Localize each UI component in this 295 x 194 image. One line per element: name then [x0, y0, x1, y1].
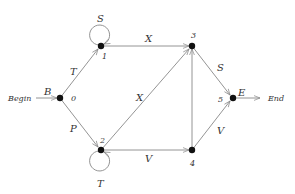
state-graph: Begin T P S T X X V S V End 0 1 2 3 4 5 …	[0, 0, 295, 194]
node-5	[230, 95, 236, 101]
node-2	[98, 147, 104, 153]
edge-label-2-2: T	[97, 178, 105, 189]
edge-label-0-2: P	[69, 123, 77, 134]
edge-0-1	[60, 49, 98, 98]
edge-3-5	[192, 46, 230, 95]
node-1	[98, 43, 104, 49]
edge-label-0-1: T	[70, 66, 78, 77]
edge-2-3	[101, 49, 189, 150]
edge-label-2-3: X	[135, 92, 144, 103]
state-label-begin: B	[43, 86, 51, 97]
node-index-3: 3	[191, 31, 196, 40]
node-0	[57, 95, 63, 101]
node-index-2: 2	[99, 136, 105, 145]
self-loop-1	[90, 25, 110, 45]
edge-0-2	[60, 98, 98, 147]
node-4	[189, 147, 195, 153]
edge-4-5	[192, 101, 230, 150]
node-index-5: 5	[218, 95, 223, 104]
begin-label: Begin	[7, 94, 31, 103]
end-label: End	[267, 94, 284, 103]
edge-label-3-5: S	[217, 62, 224, 73]
self-loop-2	[90, 151, 110, 171]
node-index-1: 1	[102, 52, 107, 61]
node-index-4: 4	[189, 159, 195, 168]
edge-label-1-3: X	[144, 33, 153, 44]
edge-label-4-5: V	[217, 125, 226, 136]
node-3	[189, 43, 195, 49]
node-index-0: 0	[71, 94, 76, 103]
state-label-end: E	[237, 87, 246, 98]
edge-label-1-1: S	[97, 13, 104, 24]
edge-label-2-4: V	[145, 153, 154, 164]
